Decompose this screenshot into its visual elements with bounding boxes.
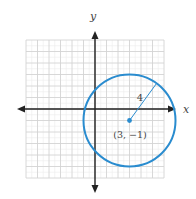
y-axis-top-arrow-icon	[92, 31, 99, 39]
radius-label: 4	[137, 92, 143, 103]
center-point	[127, 118, 132, 123]
y-axis-bottom-arrow-icon	[92, 185, 99, 193]
y-axis-label: y	[89, 10, 97, 23]
center-label: (3, −1)	[113, 129, 147, 140]
coordinate-plane: y x 4 (3, −1)	[0, 0, 196, 199]
x-axis-label: x	[183, 103, 190, 116]
x-axis-left-arrow-icon	[17, 106, 25, 113]
